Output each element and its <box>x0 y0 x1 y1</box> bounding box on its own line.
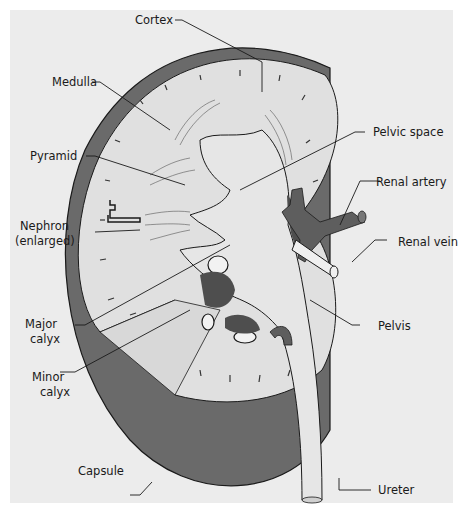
label-major-calyx-2: calyx <box>30 332 60 346</box>
label-pyramid: Pyramid <box>30 149 77 163</box>
label-minor-calyx: Minor <box>32 370 64 384</box>
label-pelvic-space: Pelvic space <box>373 125 444 139</box>
label-pelvis: Pelvis <box>378 319 411 333</box>
label-renal-vein: Renal vein <box>398 235 458 249</box>
calyx-tube-2 <box>202 314 214 330</box>
label-nephron-enlarged: (enlarged) <box>15 234 75 248</box>
kidney-diagram: Cortex Medulla Pyramid Nephron (enlarged… <box>0 0 459 513</box>
ureter-opening <box>302 497 322 503</box>
calyx-tube-1 <box>208 256 228 274</box>
label-nephron: Nephron <box>20 219 69 233</box>
label-minor-calyx-2: calyx <box>40 385 70 399</box>
label-major-calyx: Major <box>25 317 57 331</box>
label-ureter: Ureter <box>378 483 415 497</box>
label-medulla: Medulla <box>52 75 97 89</box>
label-renal-artery: Renal artery <box>376 175 447 189</box>
label-cortex: Cortex <box>135 13 173 27</box>
label-capsule: Capsule <box>78 464 124 478</box>
